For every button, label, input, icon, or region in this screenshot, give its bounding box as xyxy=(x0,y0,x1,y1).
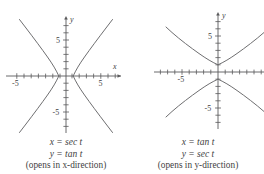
y-axis-label: y xyxy=(221,11,226,20)
x-tick-label-neg5: -5 xyxy=(178,75,185,84)
curve-left-branch-upper xyxy=(20,20,59,77)
curve-left-branch-lower xyxy=(20,76,59,133)
x-tick-label-pos5: 5 xyxy=(99,79,103,88)
y-tick-label-neg5: -5 xyxy=(205,104,212,113)
caption-left: x = sec t y = tan t (opens in x-directio… xyxy=(0,137,132,172)
hyperbola-y-direction-plot: y -5 5 -5 xyxy=(132,0,264,140)
y-tick-label-neg5: -5 xyxy=(53,108,60,117)
y-tick-label-pos5: 5 xyxy=(208,32,212,41)
x-axis-arrow xyxy=(118,74,122,78)
curve-right-branch-upper xyxy=(73,20,112,77)
caption-left-line3: (opens in x-direction) xyxy=(0,160,132,172)
caption-left-line2: y = tan t xyxy=(0,149,132,161)
chart-panel-left: x y -5 5 5 -5 x = sec t y = tan t (opens… xyxy=(0,0,132,174)
curve-right-branch-lower xyxy=(73,76,112,133)
caption-left-line1: x = sec t xyxy=(0,137,132,149)
curve-lower-branch-right xyxy=(218,79,264,111)
y-axis-label: y xyxy=(69,15,74,24)
caption-right-line2: y = sec t xyxy=(132,149,264,161)
x-tick-label-neg5: -5 xyxy=(12,79,19,88)
chart-panel-right: y -5 5 -5 x = tan t y = sec t (opens in … xyxy=(132,0,264,174)
caption-right-line1: x = tan t xyxy=(132,137,264,149)
y-tick-label-pos5: 5 xyxy=(56,36,60,45)
parametric-hyperbola-figure: x y -5 5 5 -5 x = sec t y = tan t (opens… xyxy=(0,0,264,174)
y-axis-arrow xyxy=(216,12,220,16)
x-axis-label: x xyxy=(112,62,117,71)
caption-right: x = tan t y = sec t (opens in y-directio… xyxy=(132,137,264,172)
hyperbola-x-direction-plot: x y -5 5 5 -5 xyxy=(0,0,132,140)
y-axis-arrow xyxy=(64,16,68,20)
curve-upper-branch-right xyxy=(218,33,264,65)
caption-right-line3: (opens in y-direction) xyxy=(132,160,264,172)
